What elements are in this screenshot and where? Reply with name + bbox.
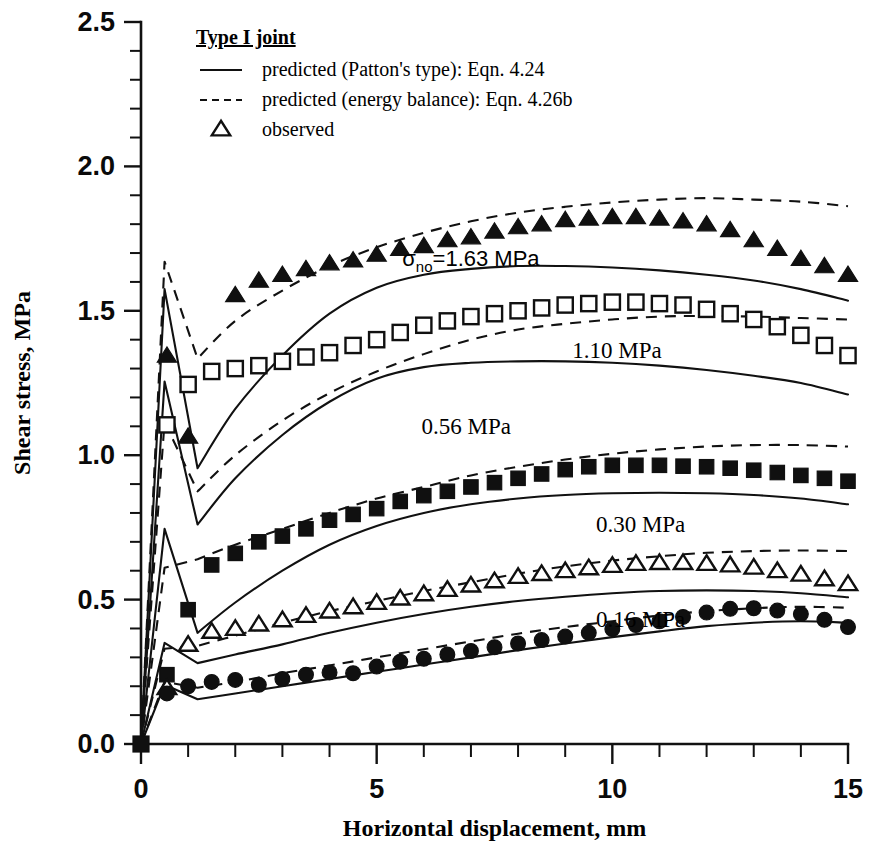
observed-marker-circle-filled	[558, 629, 573, 644]
observed-marker-square-filled	[747, 463, 761, 477]
legend-title: Type I joint	[196, 26, 296, 49]
observed-marker-square-filled	[299, 522, 313, 536]
observed-marker-square-open	[440, 313, 455, 328]
observed-marker-square-open	[793, 328, 808, 343]
x-tick-label: 10	[597, 774, 627, 804]
observed-marker-square-open	[510, 303, 525, 318]
observed-marker-triangle-filled	[650, 210, 669, 225]
observed-marker-square-filled	[534, 467, 548, 481]
observed-marker-square-open	[746, 312, 761, 327]
observed-marker-square-open	[605, 295, 620, 310]
predicted-patton-curve	[141, 590, 848, 744]
observed-marker-triangle-open	[532, 565, 550, 580]
observed-marker-square-filled	[322, 513, 336, 527]
observed-marker-triangle-open	[768, 563, 786, 578]
observed-marker-square-filled	[487, 475, 501, 489]
observed-marker-square-open	[416, 318, 431, 333]
observed-marker-circle-filled	[534, 633, 549, 648]
observed-marker-triangle-filled	[838, 266, 857, 281]
observed-marker-square-open	[298, 349, 313, 364]
x-axis-title: Horizontal displacement, mm	[343, 815, 646, 841]
x-tick-label: 5	[369, 774, 384, 804]
observed-marker-triangle-filled	[626, 208, 645, 223]
observed-marker-square-filled	[605, 458, 619, 472]
observed-marker-square-open	[770, 319, 785, 334]
observed-marker-circle-filled	[699, 605, 714, 620]
observed-marker-circle-filled	[440, 647, 455, 662]
origin-marker	[133, 736, 149, 752]
observed-marker-triangle-filled	[179, 428, 198, 443]
observed-marker-square-open	[159, 417, 174, 432]
observed-marker-square-open	[369, 332, 384, 347]
observed-marker-square-filled	[511, 471, 525, 485]
observed-marker-circle-filled	[581, 625, 596, 640]
observed-marker-square-filled	[228, 546, 242, 560]
observed-marker-square-open	[322, 345, 337, 360]
observed-marker-triangle-open	[815, 571, 833, 586]
observed-marker-triangle-open	[415, 586, 433, 601]
observed-marker-square-open	[723, 306, 738, 321]
observed-marker-triangle-filled	[508, 218, 527, 233]
x-tick-label: 15	[833, 774, 863, 804]
observed-marker-square-filled	[440, 484, 454, 498]
series-annotation: 1.10 MPa	[572, 338, 661, 363]
y-axis-title: Shear stress, MPa	[9, 291, 35, 475]
observed-marker-triangle-filled	[768, 240, 787, 255]
y-tick-label: 0.5	[77, 585, 115, 615]
figure-container: 0.00.51.01.52.02.5051015 σno=1.63 MPa1.1…	[0, 0, 876, 853]
observed-marker-circle-filled	[204, 675, 219, 690]
observed-marker-square-open	[652, 296, 667, 311]
observed-marker-triangle-open	[697, 555, 715, 570]
observed-marker-triangle-open	[839, 576, 857, 591]
observed-marker-square-open	[204, 364, 219, 379]
observed-marker-circle-filled	[299, 667, 314, 682]
axis-lines	[141, 22, 848, 744]
observed-marker-triangle-filled	[815, 257, 834, 272]
observed-marker-circle-filled	[770, 603, 785, 618]
observed-marker-square-open	[275, 354, 290, 369]
shear-stress-chart: 0.00.51.01.52.02.5051015 σno=1.63 MPa1.1…	[0, 0, 876, 853]
observed-marker-square-open	[393, 325, 408, 340]
observed-marker-circle-filled	[793, 607, 808, 622]
legend-entry-label: predicted (energy balance): Eqn. 4.26b	[262, 88, 573, 111]
observed-marker-square-filled	[181, 603, 195, 617]
observed-marker-triangle-open	[226, 620, 244, 635]
observed-marker-square-open	[346, 338, 361, 353]
observed-marker-triangle-filled	[579, 210, 598, 225]
markers-layer	[133, 208, 858, 752]
observed-marker-triangle-filled	[320, 255, 339, 270]
observed-marker-square-filled	[252, 535, 266, 549]
observed-marker-triangle-open	[792, 566, 810, 581]
observed-marker-square-filled	[652, 458, 666, 472]
observed-marker-square-open	[581, 296, 596, 311]
observed-marker-square-filled	[770, 465, 784, 479]
observed-marker-triangle-filled	[414, 237, 433, 252]
predicted-patton-curve	[141, 493, 848, 744]
observed-marker-square-filled	[275, 529, 289, 543]
observed-marker-circle-filled	[369, 659, 384, 674]
observed-marker-square-filled	[676, 459, 690, 473]
observed-marker-triangle-filled	[603, 208, 622, 223]
observed-marker-circle-filled	[487, 640, 502, 655]
observed-marker-square-filled	[699, 460, 713, 474]
observed-marker-square-filled	[205, 558, 219, 572]
observed-marker-triangle-open	[344, 599, 362, 614]
observed-marker-triangle-filled	[673, 213, 692, 228]
observed-marker-triangle-filled	[438, 231, 457, 246]
observed-marker-triangle-open	[509, 568, 527, 583]
observed-marker-triangle-open	[485, 573, 503, 588]
observed-marker-triangle-open	[721, 557, 739, 572]
y-tick-label: 1.5	[77, 296, 115, 326]
observed-marker-triangle-filled	[461, 229, 480, 244]
observed-marker-square-open	[817, 338, 832, 353]
observed-marker-square-filled	[346, 507, 360, 521]
observed-marker-square-open	[228, 361, 243, 376]
observed-marker-square-open	[251, 358, 266, 373]
series-annotation: 0.56 MPa	[421, 414, 510, 439]
observed-marker-circle-filled	[228, 672, 243, 687]
y-tick-label: 2.0	[77, 151, 115, 181]
legend-entry-label: predicted (Patton's type): Eqn. 4.24	[262, 58, 544, 81]
observed-marker-triangle-filled	[273, 266, 292, 281]
observed-marker-triangle-open	[745, 559, 763, 574]
observed-marker-square-filled	[464, 480, 478, 494]
